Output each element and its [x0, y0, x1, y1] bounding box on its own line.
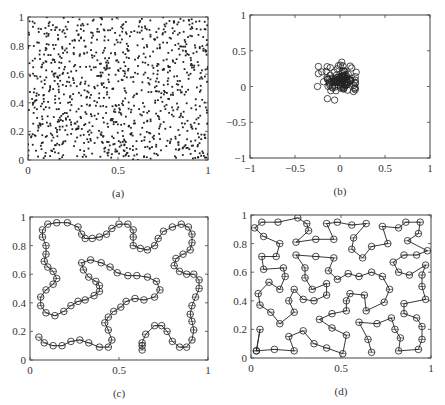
plot-area	[27, 16, 209, 161]
x-tick-label: −0.5	[285, 162, 305, 174]
y-tick-label: 0.4	[10, 97, 24, 109]
y-tick-label: 1	[19, 11, 25, 23]
plot-area	[36, 219, 203, 353]
y-tick-label: 0	[242, 352, 248, 364]
y-tick-label: 0.5	[232, 45, 246, 57]
x-tick-label: 0.5	[334, 362, 348, 374]
y-tick-label: 0.4	[233, 295, 247, 307]
y-tick-label: 1	[241, 9, 247, 21]
x-tick-label: 1	[205, 164, 211, 176]
y-tick-label: 0.8	[10, 40, 24, 52]
panel-caption: (c)	[113, 387, 126, 400]
y-tick-label: 0	[19, 154, 25, 166]
x-tick-label: 0.5	[378, 162, 392, 174]
y-tick-label: 0.8	[233, 238, 247, 250]
y-tick-label: 0.4	[12, 297, 26, 309]
x-tick-label: 0	[337, 162, 343, 174]
y-tick-label: 1	[242, 209, 248, 221]
y-tick-label: 0.6	[12, 268, 26, 280]
y-tick-label: 0.2	[233, 323, 247, 335]
panel-d: 00.5100.20.40.60.81(d)	[233, 209, 434, 398]
x-tick-label: 0	[248, 362, 254, 374]
x-tick-label: 0	[25, 164, 31, 176]
panel-b: −1−0.500.51−1−0.500.51(b)	[226, 9, 433, 198]
y-tick-label: 0	[21, 354, 27, 366]
path-line	[39, 223, 199, 350]
panel-caption: (b)	[334, 185, 347, 198]
x-tick-label: 1	[427, 162, 433, 174]
x-tick-label: 0.5	[111, 164, 125, 176]
y-tick-label: 0.8	[12, 240, 26, 252]
y-tick-label: 1	[21, 211, 27, 223]
y-tick-label: −0.5	[226, 116, 246, 128]
y-tick-label: 0.2	[12, 325, 26, 337]
panel-c: 00.5100.20.40.60.81(c)	[12, 211, 211, 400]
x-tick-label: 1	[428, 362, 434, 374]
plot-area	[251, 215, 430, 357]
figure-canvas: 00.5100.20.40.60.81(a)−1−0.500.51−1−0.50…	[0, 0, 445, 405]
y-tick-label: 0	[241, 81, 247, 93]
figure: 00.5100.20.40.60.81(a)−1−0.500.51−1−0.50…	[0, 0, 445, 405]
y-tick-label: 0.6	[233, 266, 247, 278]
panel-a: 00.5100.20.40.60.81(a)	[10, 11, 211, 200]
plot-area	[314, 59, 359, 103]
axes-frame	[28, 17, 208, 160]
y-tick-label: 0.2	[10, 125, 24, 137]
panel-caption: (a)	[112, 187, 125, 200]
panel-caption: (d)	[335, 385, 348, 398]
x-tick-label: 0	[27, 364, 33, 376]
y-tick-label: 0.6	[10, 68, 24, 80]
x-tick-label: 0.5	[112, 364, 126, 376]
y-tick-label: −1	[234, 152, 246, 164]
axes-frame	[30, 217, 208, 360]
x-tick-label: 1	[205, 364, 211, 376]
